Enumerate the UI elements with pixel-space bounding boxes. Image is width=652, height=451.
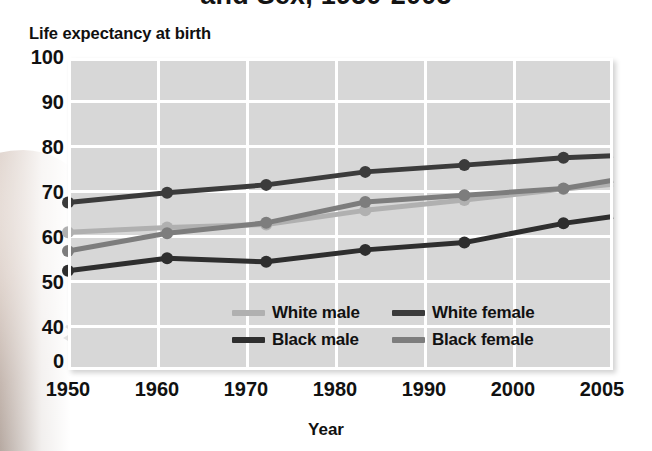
y-tick-60: 60 [8,226,64,249]
x-tick-2005: 2005 [557,378,647,401]
marker-black-female [557,183,569,195]
legend-label-white-female: White female [432,303,534,323]
y-tick-0: 0 [8,350,64,373]
marker-white-female [557,152,569,164]
legend-item-black-female: Black female [392,330,576,350]
chart-title: and Sex, 1950-2005 [0,0,652,8]
y-tick-100: 100 [8,46,64,69]
x-tick-1950: 1950 [23,378,113,401]
marker-black-male [161,252,173,264]
legend-swatch-black-female [392,337,425,343]
chart-figure: and Sex, 1950-2005 Life expectancy at bi… [0,0,652,451]
y-tick-labels: 100 90 80 70 60 50 40 0 [2,0,64,400]
x-tick-1970: 1970 [201,378,291,401]
line-white-female [68,156,613,203]
line-black-male [68,217,613,271]
legend-label-black-female: Black female [432,330,534,350]
x-tick-1980: 1980 [290,378,380,401]
marker-black-male [359,244,371,256]
marker-black-male [62,265,74,277]
legend-item-white-male: White male [232,303,392,323]
legend-swatch-white-male [232,310,265,316]
marker-black-female [458,189,470,201]
chart-legend: White male White female Black male Black… [232,299,576,353]
x-tick-1990: 1990 [379,378,469,401]
marker-white-female [458,159,470,171]
x-tick-2000: 2000 [468,378,558,401]
legend-label-black-male: Black male [272,330,359,350]
marker-black-female [359,196,371,208]
marker-black-male [557,217,569,229]
chart-title-clipped: and Sex, 1950-2005 [0,0,652,8]
y-tick-70: 70 [8,181,64,204]
legend-item-black-male: Black male [232,330,392,350]
x-tick-1960: 1960 [112,378,202,401]
y-tick-40: 40 [8,316,64,339]
x-axis-title: Year [0,420,652,440]
marker-black-male [260,256,272,268]
legend-swatch-black-male [232,337,265,343]
legend-swatch-white-female [392,310,425,316]
marker-white-female [161,187,173,199]
marker-black-male [458,237,470,249]
marker-white-male [62,226,74,238]
marker-black-female [62,245,74,257]
marker-white-female [260,179,272,191]
marker-black-female [260,217,272,229]
legend-label-white-male: White male [272,303,360,323]
y-tick-90: 90 [8,91,64,114]
marker-black-female [161,227,173,239]
legend-item-white-female: White female [392,303,576,323]
y-tick-50: 50 [8,271,64,294]
marker-white-female [359,166,371,178]
marker-white-female [62,197,74,209]
y-tick-80: 80 [8,136,64,159]
